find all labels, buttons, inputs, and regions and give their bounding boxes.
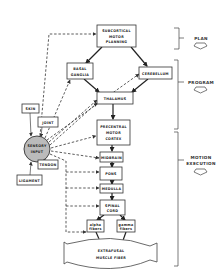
svg-text:PONS: PONS — [105, 172, 117, 176]
svg-text:JOINT: JOINT — [41, 121, 54, 125]
motor-control-diagram: SUBCORTICAL MOTOR PLANNING BASAL GANGLIA… — [0, 0, 222, 277]
down-arrow-icon — [194, 43, 207, 49]
svg-text:CORTEX: CORTEX — [105, 137, 121, 141]
svg-text:MOTION: MOTION — [190, 155, 211, 160]
node-tendon: TENDON — [38, 160, 58, 169]
node-basal-ganglia: BASAL GANGLIA — [67, 63, 93, 79]
svg-text:PLAN: PLAN — [194, 36, 208, 41]
node-gamma-fibers: gamma fibers — [117, 220, 135, 232]
down-arrow-icon — [194, 87, 207, 93]
node-midbrain: MIDBRAIN — [100, 152, 123, 162]
svg-text:PRECENTRAL: PRECENTRAL — [100, 125, 127, 129]
svg-text:EXTRAFUSAL: EXTRAFUSAL — [98, 249, 125, 253]
node-spinal-cord: SPINAL CORD — [100, 200, 125, 215]
node-skin: SKIN — [22, 104, 39, 113]
svg-text:MIDBRAIN: MIDBRAIN — [101, 156, 122, 160]
node-joint: JOINT — [38, 117, 58, 127]
svg-text:MUSCLE FIBER: MUSCLE FIBER — [96, 256, 126, 260]
solid-pathway-arrows — [84, 47, 148, 246]
svg-text:THALAMUS: THALAMUS — [104, 97, 127, 101]
svg-text:gamma: gamma — [119, 223, 134, 227]
svg-text:PLANNING: PLANNING — [106, 40, 127, 44]
node-cerebellum: CEREBELLUM — [139, 67, 172, 79]
stage-program: PROGRAM — [174, 60, 214, 129]
svg-text:EXECUTION: EXECUTION — [186, 161, 216, 166]
svg-text:fibers: fibers — [89, 227, 101, 231]
svg-text:SKIN: SKIN — [26, 107, 36, 111]
svg-text:SENSORY: SENSORY — [27, 144, 46, 148]
node-pons: PONS — [100, 167, 122, 180]
svg-text:CORD: CORD — [107, 209, 119, 213]
node-precentral-motor-cortex: PRECENTRAL MOTOR CORTEX — [97, 120, 130, 145]
node-thalamus: THALAMUS — [97, 92, 133, 104]
svg-text:MOTOR: MOTOR — [106, 131, 121, 135]
svg-text:alpha: alpha — [90, 223, 102, 227]
node-extrafusal-muscle-fiber: EXTRAFUSAL MUSCLE FIBER — [64, 238, 157, 268]
node-ligament: LIGAMENT — [17, 175, 42, 185]
down-arrow-icon — [194, 169, 207, 175]
svg-text:INPUT: INPUT — [31, 150, 44, 154]
stage-plan: PLAN — [174, 28, 208, 49]
svg-text:BASAL: BASAL — [73, 67, 86, 71]
svg-text:GANGLIA: GANGLIA — [71, 73, 90, 77]
svg-text:SPINAL: SPINAL — [105, 204, 120, 208]
node-subcortical-motor-planning: SUBCORTICAL MOTOR PLANNING — [97, 25, 136, 47]
node-alpha-fibers: alpha fibers — [87, 220, 104, 232]
svg-text:fibers: fibers — [120, 227, 132, 231]
node-sensory-input: SENSORY INPUT — [24, 136, 50, 162]
svg-text:LIGAMENT: LIGAMENT — [19, 179, 41, 183]
svg-text:TENDON: TENDON — [39, 163, 56, 167]
svg-text:MEDULLA: MEDULLA — [102, 187, 122, 191]
stage-motion-execution: MOTION EXECUTION — [174, 132, 216, 266]
svg-text:MOTOR: MOTOR — [109, 35, 124, 39]
svg-text:CEREBELLUM: CEREBELLUM — [142, 72, 169, 76]
svg-text:PROGRAM: PROGRAM — [188, 80, 214, 85]
node-medulla: MEDULLA — [100, 184, 123, 193]
svg-text:SUBCORTICAL: SUBCORTICAL — [102, 29, 131, 33]
